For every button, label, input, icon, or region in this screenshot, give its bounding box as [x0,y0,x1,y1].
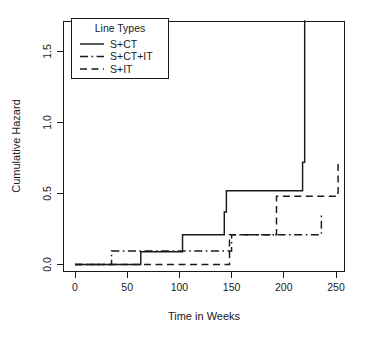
y-axis-title: Cumulative Hazard [10,99,22,193]
x-tick-label: 0 [72,281,78,293]
legend-label-s-it: S+IT [110,63,133,75]
legend-title: Line Types [95,22,146,34]
y-tick-label: 1.0 [41,115,53,130]
chart-canvas: 0.00.51.01.5 050100150200250 Line Types … [0,0,367,339]
x-axis-ticks: 050100150200250 [72,272,345,294]
y-tick-label: 0.5 [41,186,53,201]
series-line-s-it [75,162,338,264]
cumulative-hazard-chart: 0.00.51.01.5 050100150200250 Line Types … [0,0,367,339]
y-axis-ticks: 0.00.51.01.5 [41,44,64,272]
chart-legend: Line Types S+CTS+CT+ITS+IT [72,19,169,79]
x-tick-label: 250 [327,281,345,293]
y-tick-label: 1.5 [41,44,53,59]
x-tick-label: 100 [171,281,189,293]
series-line-s-ct-it [75,215,321,265]
x-tick-label: 200 [275,281,293,293]
x-axis-title: Time in Weeks [168,310,241,322]
legend-label-s-ct-it: S+CT+IT [110,50,153,62]
x-tick-label: 50 [121,281,133,293]
y-tick-label: 0.0 [41,257,53,272]
x-tick-label: 150 [223,281,241,293]
legend-label-s-ct: S+CT [110,38,138,50]
